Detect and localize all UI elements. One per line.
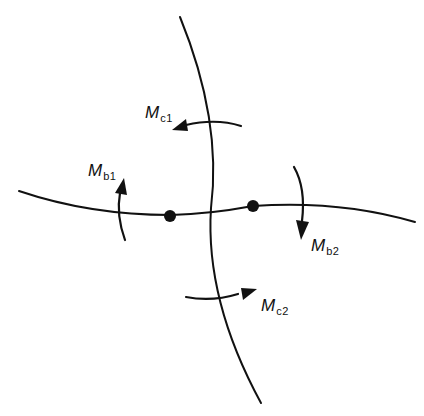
label-mb1-symbol: M — [88, 161, 102, 180]
arrowhead-mb1-icon — [115, 178, 127, 195]
label-mc2-subscript: c2 — [276, 305, 289, 317]
label-mb1-subscript: b1 — [103, 170, 116, 182]
moment-arc-mb2 — [294, 167, 303, 221]
label-mc1-symbol: M — [145, 103, 159, 122]
moment-arc-mc2 — [186, 294, 238, 299]
arrowhead-mc2-icon — [241, 288, 257, 300]
label-mb2-symbol: M — [311, 236, 325, 255]
label-mb2: Mb2 — [311, 237, 339, 254]
moment-arc-mb1 — [119, 193, 125, 240]
label-mb2-subscript: b2 — [326, 245, 339, 257]
label-mc2-symbol: M — [261, 296, 275, 315]
arrowhead-mb2-icon — [296, 220, 309, 240]
arrowhead-mc1-icon — [172, 119, 188, 131]
moment-diagram — [0, 0, 424, 416]
node-right — [247, 200, 259, 212]
moment-arc-mc1 — [186, 122, 241, 126]
label-mc2: Mc2 — [261, 297, 289, 314]
node-left — [164, 210, 176, 222]
beam-member — [19, 191, 415, 222]
label-mc1-subscript: c1 — [160, 112, 173, 124]
label-mc1: Mc1 — [145, 104, 173, 121]
label-mb1: Mb1 — [88, 162, 116, 179]
